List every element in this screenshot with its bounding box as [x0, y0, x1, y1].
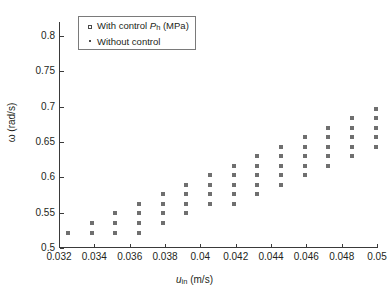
data-point	[326, 145, 330, 149]
y-tick-mark	[60, 36, 64, 37]
data-point	[232, 192, 236, 196]
x-tick-label: 0.046	[294, 252, 319, 262]
data-point	[137, 231, 141, 235]
data-point	[184, 183, 188, 187]
x-tick-label: 0.04	[191, 252, 210, 262]
plot-area	[59, 22, 377, 248]
y-tick-label: 0.8	[41, 31, 55, 41]
x-tick-label: 0.044	[258, 252, 283, 262]
y-tick-mark	[60, 107, 64, 108]
data-point	[255, 154, 259, 158]
y-tick-label: 0.7	[41, 102, 55, 112]
data-point	[303, 164, 307, 168]
data-point	[137, 202, 141, 206]
data-point	[184, 211, 188, 215]
x-tick-mark	[94, 244, 95, 248]
x-tick-label: 0.036	[117, 252, 142, 262]
data-point	[161, 202, 165, 206]
data-point	[208, 173, 212, 177]
x-tick-mark	[130, 244, 131, 248]
data-point	[374, 145, 378, 149]
x-axis-title: uin (m/s)	[0, 274, 389, 286]
legend-text-post: (MPa)	[160, 20, 189, 31]
x-tick-mark	[271, 244, 272, 248]
x-tick-label: 0.05	[367, 252, 386, 262]
data-point	[232, 183, 236, 187]
data-point	[255, 164, 259, 168]
y-tick-label: 0.55	[36, 208, 55, 218]
x-tick-mark	[377, 244, 378, 248]
x-tick-label: 0.042	[223, 252, 248, 262]
data-point	[374, 107, 378, 111]
data-point	[232, 202, 236, 206]
data-point	[184, 202, 188, 206]
y-axis-title: ω (rad/s)	[6, 68, 17, 178]
x-tick-mark	[342, 244, 343, 248]
legend-item-with-control: With control Ph (MPa)	[84, 20, 190, 34]
data-point	[326, 126, 330, 130]
data-point	[208, 192, 212, 196]
x-tick-mark	[306, 244, 307, 248]
chart-legend: With control Ph (MPa) Without control	[78, 16, 196, 50]
data-point	[161, 221, 165, 225]
data-point	[208, 183, 212, 187]
data-point	[279, 173, 283, 177]
x-tick-label: 0.038	[152, 252, 177, 262]
x-tick-mark	[236, 244, 237, 248]
data-point	[137, 221, 141, 225]
legend-item-without-control: Without control	[84, 34, 190, 48]
x-tick-label: 0.048	[329, 252, 354, 262]
y-axis-line	[59, 22, 60, 248]
data-point	[113, 211, 117, 215]
chart-figure: 0.50.550.60.650.70.750.8 ω (rad/s) 0.032…	[0, 0, 389, 306]
data-point	[161, 211, 165, 215]
data-point	[350, 126, 354, 130]
data-point	[255, 183, 259, 187]
data-point	[208, 202, 212, 206]
data-point	[255, 173, 259, 177]
small-dot-icon	[84, 40, 96, 42]
data-point	[90, 221, 94, 225]
legend-label-without-control: Without control	[97, 36, 160, 47]
legend-label-with-control: With control Ph (MPa)	[97, 20, 189, 33]
data-point	[374, 126, 378, 130]
data-point	[350, 116, 354, 120]
y-tick-mark	[60, 213, 64, 214]
legend-text-pre: With control	[97, 20, 150, 31]
data-point	[326, 154, 330, 158]
x-tick-label: 0.032	[46, 252, 71, 262]
data-point	[232, 164, 236, 168]
y-tick-mark	[60, 248, 64, 249]
data-point	[279, 154, 283, 158]
data-point	[137, 211, 141, 215]
data-point	[326, 164, 330, 168]
data-point	[184, 192, 188, 196]
y-tick-label: 0.75	[36, 66, 55, 76]
x-tick-mark	[200, 244, 201, 248]
x-tick-mark	[59, 244, 60, 248]
data-point	[161, 192, 165, 196]
y-tick-label: 0.6	[41, 172, 55, 182]
data-point	[255, 192, 259, 196]
data-point	[374, 135, 378, 139]
x-tick-mark	[165, 244, 166, 248]
data-point	[303, 154, 307, 158]
data-point	[113, 221, 117, 225]
data-point	[232, 173, 236, 177]
data-point	[350, 145, 354, 149]
data-point	[350, 154, 354, 158]
x-axis-tick-labels: 0.0320.0340.0360.0380.040.0420.0440.0460…	[59, 252, 377, 266]
x-axis-line	[59, 247, 377, 248]
y-tick-mark	[60, 71, 64, 72]
y-tick-mark	[60, 177, 64, 178]
x-tick-label: 0.034	[82, 252, 107, 262]
data-point	[113, 231, 117, 235]
data-point	[350, 135, 354, 139]
data-point	[303, 135, 307, 139]
data-point	[279, 164, 283, 168]
y-tick-label: 0.65	[36, 137, 55, 147]
data-point	[374, 116, 378, 120]
data-point	[303, 145, 307, 149]
data-point	[303, 173, 307, 177]
data-point	[66, 231, 70, 235]
